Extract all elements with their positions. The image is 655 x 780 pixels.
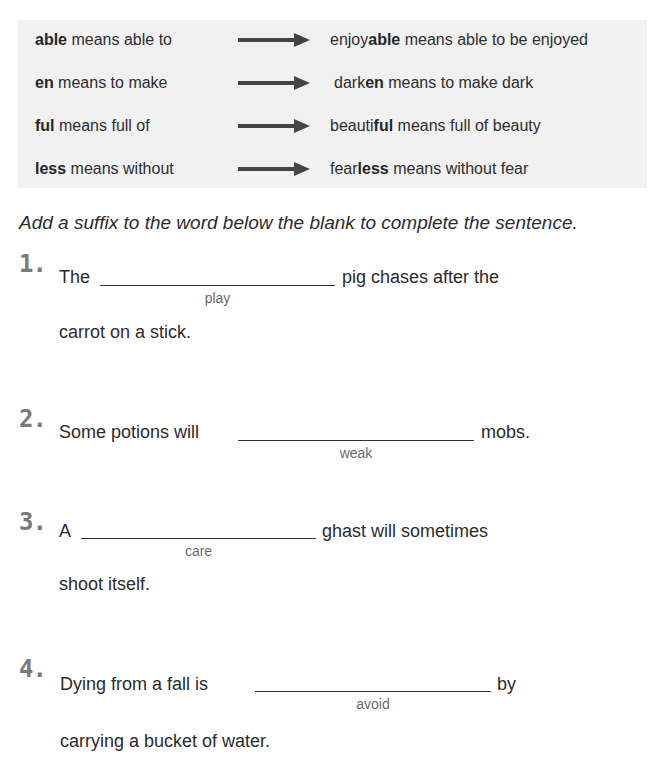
question-3-text-after: ghast will sometimes <box>322 520 488 542</box>
example-meaning: means to make dark <box>384 74 533 91</box>
suffix-term: less <box>35 160 66 177</box>
base-word-hint-3: care <box>81 543 316 559</box>
example-meaning: means full of beauty <box>393 117 541 134</box>
suffix-rule-able: able means able to <box>35 30 172 50</box>
example-meaning: means able to be enjoyed <box>400 31 588 48</box>
example-suffix: less <box>358 160 389 177</box>
suffix-rule-ful: ful means full of <box>35 116 150 136</box>
question-4-text-before: Dying from a fall is <box>60 673 208 695</box>
base-word-hint-4: avoid <box>255 696 491 712</box>
example-root: dark <box>334 74 365 91</box>
question-1-text-after: pig chases after the <box>342 266 499 288</box>
example-root: beauti <box>330 117 374 134</box>
suffix-term: ful <box>35 117 55 134</box>
question-2-text-before: Some potions will <box>59 421 199 443</box>
suffix-example-fearless: fearless means without fear <box>330 159 528 179</box>
suffix-meaning: means able to <box>67 31 172 48</box>
suffix-example-beautiful: beautiful means full of beauty <box>330 116 541 136</box>
question-3-text-line2: shoot itself. <box>59 573 150 595</box>
right-arrow-icon <box>238 162 310 176</box>
example-suffix: able <box>368 31 400 48</box>
question-1-text-before: The <box>59 266 90 288</box>
suffix-term: able <box>35 31 67 48</box>
suffix-meaning: means without <box>66 160 174 177</box>
question-number-4: 4. <box>19 657 46 681</box>
right-arrow-icon <box>238 76 310 90</box>
example-suffix: en <box>365 74 384 91</box>
example-meaning: means without fear <box>389 160 529 177</box>
right-arrow-icon <box>238 33 310 47</box>
question-number-1: 1. <box>19 252 46 276</box>
answer-blank-3[interactable] <box>81 538 316 539</box>
question-number-2: 2. <box>19 407 46 431</box>
example-root: enjoy <box>330 31 368 48</box>
suffix-meaning: means full of <box>55 117 150 134</box>
question-3-text-before: A <box>59 520 71 542</box>
suffix-meaning: means to make <box>54 74 168 91</box>
example-root: fear <box>330 160 358 177</box>
question-number-3: 3. <box>19 510 46 534</box>
answer-blank-4[interactable] <box>255 691 491 692</box>
question-2-text-after: mobs. <box>481 421 530 443</box>
example-suffix: ful <box>374 117 394 134</box>
suffix-example-darken: darken means to make dark <box>334 73 533 93</box>
exercise-instruction: Add a suffix to the word below the blank… <box>19 212 578 234</box>
question-4-text-line2: carrying a bucket of water. <box>60 730 270 752</box>
right-arrow-icon <box>238 119 310 133</box>
suffix-rule-less: less means without <box>35 159 174 179</box>
question-1-text-line2: carrot on a stick. <box>59 321 191 343</box>
answer-blank-2[interactable] <box>238 440 474 441</box>
suffix-rule-en: en means to make <box>35 73 168 93</box>
suffix-term: en <box>35 74 54 91</box>
question-4-text-after: by <box>497 673 516 695</box>
base-word-hint-2: weak <box>238 445 474 461</box>
base-word-hint-1: play <box>100 290 335 306</box>
suffix-example-enjoyable: enjoyable means able to be enjoyed <box>330 30 588 50</box>
answer-blank-1[interactable] <box>100 285 335 286</box>
